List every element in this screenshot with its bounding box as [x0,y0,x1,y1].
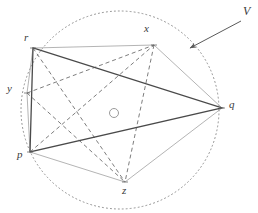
geometric-figure: p y r x q z V [0,0,258,213]
circumcircle [21,11,219,209]
annotation-arrow [190,21,241,48]
dashed-chord-p-x [30,45,154,152]
vertex-ticks [24,45,225,182]
dashed-chord-r-z [33,48,125,182]
vertex-label-p: p [17,149,23,160]
dashed-chord-y-z [27,93,125,182]
center-marker-circle [110,109,119,118]
vertex-label-x: x [144,23,149,34]
annotation-label-v: V [243,5,250,17]
vertex-label-r: r [24,32,28,43]
dashed-chord-x-z [125,45,154,182]
hexagon-outline [27,45,222,182]
vertex-label-q: q [229,99,235,110]
solid-triangle-prq [30,48,222,152]
vertex-label-y: y [7,83,12,94]
figure-canvas [0,0,258,213]
dashed-chord-group [27,45,154,182]
vertex-label-z: z [122,185,126,196]
